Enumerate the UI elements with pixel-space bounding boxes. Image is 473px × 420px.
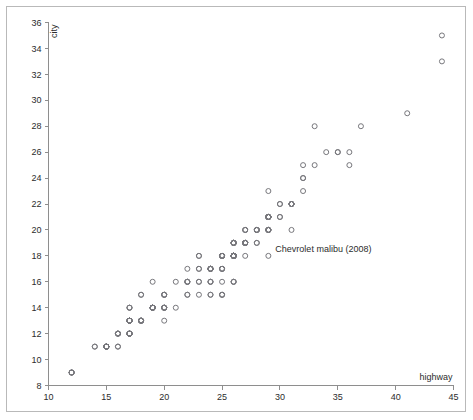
x-axis-tick-label: 10 [43, 392, 53, 402]
data-point [231, 240, 236, 245]
data-point [231, 253, 236, 258]
y-axis-tick-label: 22 [31, 199, 41, 209]
data-point [208, 292, 213, 297]
data-point [277, 202, 282, 207]
data-point [301, 189, 306, 194]
y-axis-tick-label: 18 [31, 251, 41, 261]
data-point [220, 279, 225, 284]
data-point [115, 344, 120, 349]
y-axis-tick-label: 24 [31, 173, 41, 183]
y-axis-tick-label: 34 [31, 44, 41, 54]
y-axis-tick-label: 28 [31, 121, 41, 131]
data-point [185, 292, 190, 297]
y-axis-tick-label: 32 [31, 70, 41, 80]
figure-root: 81012141618202224262830323436 1015202530… [0, 0, 473, 420]
y-axis-tick-label: 36 [31, 18, 41, 28]
data-point [92, 344, 97, 349]
data-point [254, 240, 259, 245]
y-axis-tick-label: 10 [31, 355, 41, 365]
data-point [196, 253, 201, 258]
data-point [150, 305, 155, 310]
data-point [139, 292, 144, 297]
data-point [312, 124, 317, 129]
data-point [196, 279, 201, 284]
data-point [162, 305, 167, 310]
data-point [289, 227, 294, 232]
data-point [115, 331, 120, 336]
scatter-plot-canvas: 81012141618202224262830323436 1015202530… [0, 0, 473, 420]
data-point [220, 266, 225, 271]
data-point [243, 253, 248, 258]
y-axis-tick-label: 26 [31, 147, 41, 157]
y-axis-tick-label: 20 [31, 225, 41, 235]
data-point [266, 189, 271, 194]
data-point [439, 33, 444, 38]
data-point [220, 292, 225, 297]
data-point [162, 318, 167, 323]
data-point [301, 163, 306, 168]
data-point [312, 163, 317, 168]
data-point [439, 59, 444, 64]
data-point [220, 253, 225, 258]
data-point [289, 202, 294, 207]
data-point [208, 266, 213, 271]
data-point [358, 124, 363, 129]
data-point [196, 292, 201, 297]
x-axis-tick-label: 40 [391, 392, 401, 402]
data-point [266, 253, 271, 258]
x-axis-tick-label: 15 [101, 392, 111, 402]
data-point [173, 279, 178, 284]
y-axis-tick-label: 30 [31, 95, 41, 105]
y-axis-tick-label: 16 [31, 277, 41, 287]
data-point [254, 227, 259, 232]
data-point [347, 163, 352, 168]
y-axis-tick-label: 12 [31, 329, 41, 339]
x-axis-title: highway [419, 372, 453, 382]
data-point [162, 292, 167, 297]
data-point [324, 150, 329, 155]
data-point [127, 318, 132, 323]
x-axis-tick-label: 35 [333, 392, 343, 402]
data-point [185, 279, 190, 284]
data-point [266, 227, 271, 232]
data-point [243, 227, 248, 232]
data-point [301, 176, 306, 181]
data-point [196, 266, 201, 271]
point-annotation-layer: Chevrolet malibu (2008) [275, 244, 371, 254]
data-point [243, 240, 248, 245]
data-point [127, 331, 132, 336]
y-axis-tick-label: 14 [31, 303, 41, 313]
x-axis-tick-label: 25 [217, 392, 227, 402]
data-point [277, 214, 282, 219]
y-axis: 81012141618202224262830323436 [31, 18, 48, 391]
y-axis-tick-label: 8 [36, 381, 41, 391]
data-point [266, 214, 271, 219]
y-axis-title: city [49, 24, 59, 38]
x-axis-tick-label: 45 [448, 392, 458, 402]
data-point [405, 111, 410, 116]
data-point [139, 318, 144, 323]
data-point [208, 279, 213, 284]
data-point [127, 305, 132, 310]
x-axis: 1015202530354045 [43, 386, 458, 402]
data-point [185, 266, 190, 271]
x-axis-tick-label: 30 [275, 392, 285, 402]
data-point [150, 279, 155, 284]
data-point [69, 370, 74, 375]
data-point [347, 150, 352, 155]
data-points-layer [69, 33, 444, 375]
data-point [173, 305, 178, 310]
point-annotation-label: Chevrolet malibu (2008) [275, 244, 371, 254]
data-point [104, 344, 109, 349]
data-point [335, 150, 340, 155]
x-axis-tick-label: 20 [159, 392, 169, 402]
data-point [231, 279, 236, 284]
